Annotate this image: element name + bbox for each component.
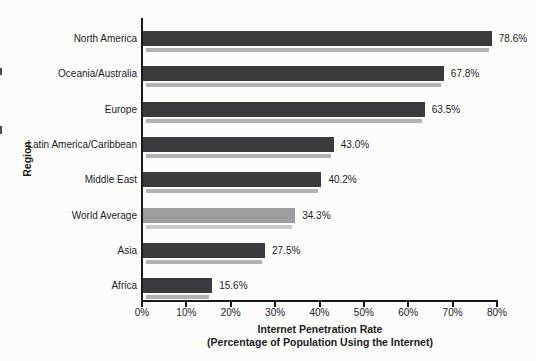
bar-shadow <box>146 225 292 229</box>
chart-page: Region Internet Penetration Rate (Percen… <box>0 0 536 361</box>
x-tick-label: 10% <box>166 307 206 318</box>
x-axis-subtitle: (Percentage of Population Using the Inte… <box>142 336 498 348</box>
x-tick-label: 60% <box>388 307 428 318</box>
value-label: 78.6% <box>499 31 527 46</box>
bar-highlighted <box>143 208 295 223</box>
value-label: 15.6% <box>219 278 247 293</box>
bar-chart: Region Internet Penetration Rate (Percen… <box>0 0 536 361</box>
value-label: 63.5% <box>432 102 460 117</box>
x-tick-label: 0% <box>122 307 162 318</box>
bar-shadow <box>146 83 441 87</box>
value-label: 34.3% <box>302 208 330 223</box>
x-tick-label: 80% <box>477 307 517 318</box>
category-label: World Average <box>0 208 137 223</box>
bar <box>143 102 425 117</box>
x-tick-label: 50% <box>344 307 384 318</box>
bar-shadow <box>146 119 422 123</box>
bar <box>143 137 334 152</box>
category-label: Oceania/Australia <box>0 66 137 81</box>
category-label: Middle East <box>0 172 137 187</box>
category-label: Africa <box>0 278 137 293</box>
bar-shadow <box>146 295 209 299</box>
value-label: 40.2% <box>328 172 356 187</box>
bar-shadow <box>146 189 318 193</box>
category-label: Asia <box>0 243 137 258</box>
x-tick-label: 70% <box>433 307 473 318</box>
x-axis-title: Internet Penetration Rate <box>142 323 498 335</box>
value-label: 27.5% <box>272 243 300 258</box>
bar-shadow <box>146 260 262 264</box>
bar-shadow <box>146 154 331 158</box>
x-tick-label: 30% <box>255 307 295 318</box>
category-label: Europe <box>0 102 137 117</box>
category-label: North America <box>0 31 137 46</box>
value-label: 67.8% <box>451 66 479 81</box>
bar <box>143 243 265 258</box>
bar-shadow <box>146 48 489 52</box>
bar <box>143 31 492 46</box>
page-edge-artifact <box>0 126 2 134</box>
x-tick-label: 20% <box>211 307 251 318</box>
bar <box>143 278 212 293</box>
category-label: Latin America/Caribbean <box>0 137 137 152</box>
x-tick-label: 40% <box>300 307 340 318</box>
bar <box>143 66 444 81</box>
bar <box>143 172 321 187</box>
y-axis-line <box>141 18 143 302</box>
value-label: 43.0% <box>341 137 369 152</box>
